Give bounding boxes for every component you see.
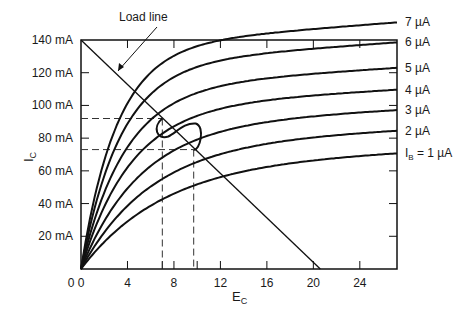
- y-axis-label: IC: [21, 151, 38, 162]
- x-tick-label: 16: [260, 276, 274, 290]
- curve-label: IB = 1 µA: [405, 146, 452, 162]
- x-tick-label: 24: [353, 276, 367, 290]
- curve-label: 7 µA: [405, 15, 430, 29]
- x-tick-label: 20: [307, 276, 321, 290]
- y-tick-label: 140 mA: [32, 33, 73, 47]
- x-tick-label: 4: [124, 276, 131, 290]
- collector-curve: [81, 153, 397, 269]
- y-tick-label: 120 mA: [32, 66, 73, 80]
- load-line-segment: [81, 40, 320, 269]
- load-line-annotation: Load line: [119, 10, 168, 24]
- load-line-annotation-arrow: [118, 27, 157, 71]
- x-tick-label: 12: [214, 276, 228, 290]
- curve-label: 3 µA: [405, 103, 430, 117]
- x-tick-label: 8: [171, 276, 178, 290]
- curve-label: 5 µA: [405, 61, 430, 75]
- x-tick-label: 0: [78, 276, 85, 290]
- plot-frame: [81, 40, 397, 269]
- y-tick-label: 60 mA: [38, 164, 73, 178]
- collector-curve: [81, 131, 397, 269]
- collector-curve: [81, 42, 397, 269]
- y-tick-label: 100 mA: [32, 98, 73, 112]
- curve-label: 2 µA: [405, 124, 430, 138]
- arrowhead-icon: [118, 63, 124, 71]
- collector-curve: [81, 68, 397, 269]
- curve-label: 4 µA: [405, 83, 430, 97]
- x-axis-label: EC: [232, 289, 248, 306]
- y-tick-label: 40 mA: [38, 197, 73, 211]
- y-tick-label: 20 mA: [38, 229, 73, 243]
- plot-border: [81, 40, 397, 269]
- collector-curve: [81, 90, 397, 269]
- origin-label: 0: [68, 276, 75, 290]
- transistor-characteristic-chart: 04812162024 20 mA40 mA60 mA80 mA100 mA12…: [0, 0, 471, 319]
- load-line: [81, 40, 320, 269]
- y-tick-label: 80 mA: [38, 131, 73, 145]
- curve-labels: IB = 1 µA2 µA3 µA4 µA5 µA6 µA7 µA: [405, 15, 452, 162]
- curve-label: 6 µA: [405, 35, 430, 49]
